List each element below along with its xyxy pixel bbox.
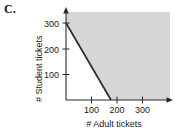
x-tick-label-300: 300 — [135, 105, 150, 115]
y-axis-arrow-icon — [63, 7, 69, 14]
shaded-solution-region — [66, 12, 170, 100]
figure-panel: C. 300 200 100 100 200 300 # Adult ticke… — [0, 0, 176, 132]
x-axis-title: # Adult tickets — [86, 119, 142, 129]
x-tick-label-100: 100 — [84, 105, 99, 115]
y-axis-title: # Student tickets — [34, 35, 44, 102]
y-tick-label-200: 200 — [44, 45, 59, 55]
y-tick-label-100: 100 — [44, 70, 59, 80]
x-tick-label-200: 200 — [109, 105, 124, 115]
y-tick-label-300: 300 — [44, 19, 59, 29]
chart-plot: 300 200 100 100 200 300 # Adult tickets … — [0, 0, 176, 132]
